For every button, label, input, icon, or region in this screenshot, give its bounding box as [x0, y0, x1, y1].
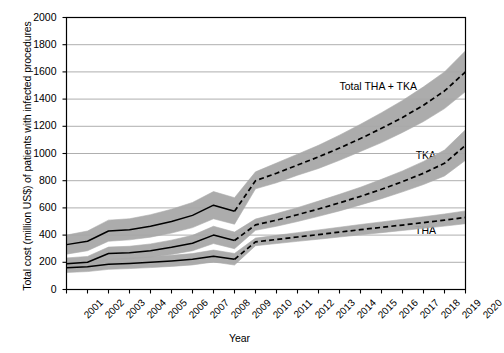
x-tick-2020: 2020: [480, 297, 504, 321]
confidence-bands: [67, 51, 466, 273]
